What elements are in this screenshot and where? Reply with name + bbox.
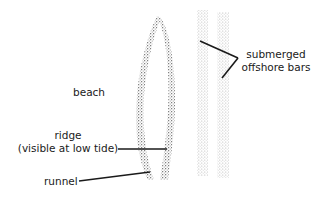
leader-lines	[79, 41, 238, 181]
diagram: beach ridge (visible at low tide) runnel…	[0, 0, 315, 201]
ridge-label-line2: (visible at low tide)	[16, 142, 120, 155]
diagram-graphic	[0, 0, 315, 201]
beach-label: beach	[73, 86, 105, 99]
ridge-band	[136, 16, 175, 180]
offshore-bars-label: submerged offshore bars	[237, 48, 315, 74]
ridge-label-line1: ridge	[16, 129, 120, 142]
offshore-bar-2	[217, 12, 229, 178]
offshore-bars-label-line2: offshore bars	[237, 61, 315, 74]
ridge-label: ridge (visible at low tide)	[16, 129, 120, 155]
offshore-bar-1	[197, 10, 208, 176]
runnel-label: runnel	[44, 175, 78, 188]
offshore-bars-label-line1: submerged	[237, 48, 315, 61]
